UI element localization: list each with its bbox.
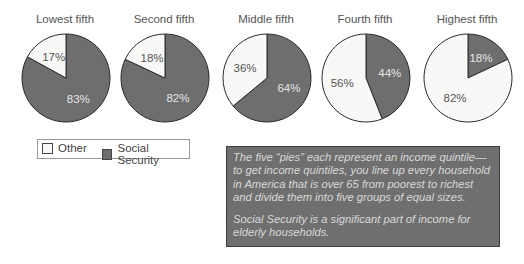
- pie-title: Highest fifth: [417, 13, 517, 25]
- pie-label-other: 17%: [42, 51, 65, 63]
- explanation-note: The five “pies” each represent an income…: [226, 146, 500, 247]
- legend-item-other: Other: [42, 142, 87, 154]
- pie-lowest-fifth: Lowest fifth 83%17%: [15, 0, 115, 130]
- pie-label-social-security: 18%: [469, 52, 492, 64]
- pie-label-social-security: 82%: [166, 92, 189, 104]
- legend-item-social-security: Social Security: [102, 142, 189, 166]
- legend-label-social-security: Social Security: [117, 142, 189, 166]
- pie-graphic: 18%82%: [422, 32, 514, 124]
- pie-second-fifth: Second fifth 82%18%: [114, 0, 214, 130]
- pie-label-social-security: 83%: [67, 93, 90, 105]
- pie-graphic: 44%56%: [320, 32, 412, 124]
- legend-swatch-social-security: [102, 149, 112, 160]
- pie-middle-fifth: Middle fifth 64%36%: [216, 0, 316, 130]
- pie-highest-fifth: Highest fifth 18%82%: [417, 0, 517, 130]
- pie-fourth-fifth: Fourth fifth 44%56%: [315, 0, 415, 130]
- pie-title: Second fifth: [114, 13, 214, 25]
- pie-graphic: 82%18%: [119, 32, 211, 124]
- pie-label-other: 82%: [444, 92, 467, 104]
- pie-label-social-security: 64%: [277, 82, 300, 94]
- pie-label-other: 36%: [234, 62, 257, 74]
- pie-graphic: 83%17%: [20, 32, 112, 124]
- pie-label-social-security: 44%: [378, 67, 401, 79]
- pie-graphic: 64%36%: [221, 32, 313, 124]
- legend-swatch-other: [42, 143, 53, 154]
- note-paragraph-1: The five “pies” each represent an income…: [233, 151, 493, 204]
- pie-label-other: 18%: [141, 52, 164, 64]
- pie-title: Lowest fifth: [15, 13, 115, 25]
- legend-label-other: Other: [58, 142, 87, 154]
- pie-title: Fourth fifth: [315, 13, 415, 25]
- chart-legend: Other Social Security: [37, 139, 190, 159]
- pie-title: Middle fifth: [216, 13, 316, 25]
- note-paragraph-2: Social Security is a significant part of…: [233, 213, 493, 240]
- pie-label-other: 56%: [331, 77, 354, 89]
